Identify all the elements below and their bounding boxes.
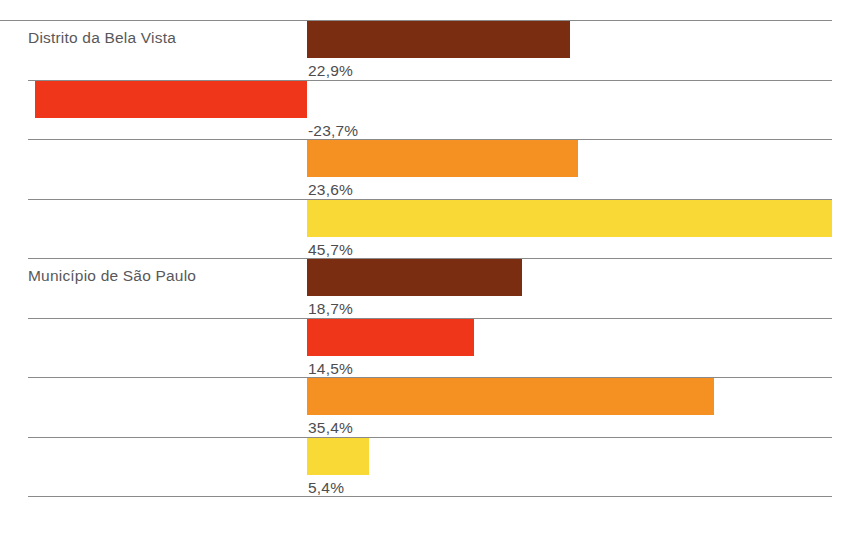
bar-0-2 — [307, 140, 578, 177]
value-label-0-1: -23,7% — [308, 122, 358, 140]
value-label-0-0: 22,9% — [308, 62, 353, 80]
value-label-1-3: 5,4% — [308, 479, 344, 497]
group-label-0: Distrito da Bela Vista — [28, 29, 176, 47]
bar-chart: Distrito da Bela Vista22,9%-23,7%23,6%45… — [0, 0, 852, 550]
bar-1-0 — [307, 259, 522, 296]
bar-0-0 — [307, 21, 570, 58]
value-label-1-2: 35,4% — [308, 419, 353, 437]
gridline — [28, 437, 832, 438]
bar-1-2 — [307, 378, 714, 415]
value-label-0-2: 23,6% — [308, 181, 353, 199]
gridline — [28, 496, 832, 497]
bar-0-1 — [35, 81, 307, 118]
value-label-1-1: 14,5% — [308, 360, 353, 378]
bar-1-1 — [307, 319, 474, 356]
value-label-0-3: 45,7% — [308, 241, 353, 259]
group-label-1: Município de São Paulo — [28, 267, 196, 285]
bar-1-3 — [307, 438, 369, 475]
value-label-1-0: 18,7% — [308, 300, 353, 318]
bar-0-3 — [307, 200, 832, 237]
